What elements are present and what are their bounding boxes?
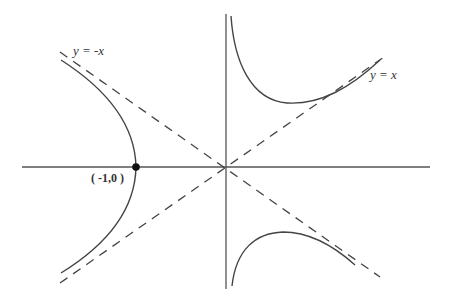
label-y-eq-x: y = x bbox=[370, 67, 397, 83]
point-neg1-0 bbox=[132, 163, 140, 171]
label-y-eq-neg-x: y = -x bbox=[73, 43, 104, 59]
label-point-neg1-0: ( -1,0 ) bbox=[91, 171, 124, 186]
hyperbola-upper-right-branch bbox=[231, 16, 380, 103]
asymptote-y-eq-neg-x bbox=[60, 52, 380, 277]
hyperbola-lower-right-branch bbox=[232, 232, 355, 286]
hyperbola-diagram bbox=[0, 0, 450, 301]
